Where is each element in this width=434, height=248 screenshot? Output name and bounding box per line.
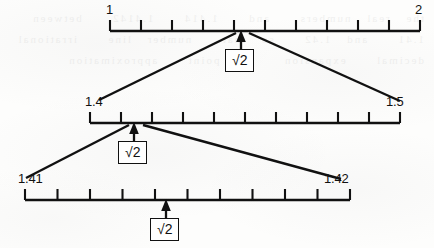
- axis-end-label-line2: 1.5: [386, 94, 403, 109]
- magnifier-middle: [26, 125, 341, 179]
- number-line-1p41-to-1p42: [25, 189, 350, 219]
- sqrt2-value-box-line2: √2: [118, 141, 147, 164]
- number-line-magnification-figure: the real numbers and 1.414 1.4142 betwee…: [0, 0, 434, 248]
- number-line-1p4-to-1p5: [90, 112, 400, 142]
- magnifier-right-ray: [143, 125, 341, 179]
- axis-end-label-line1: 2: [415, 2, 422, 17]
- axis-end-label-line3: 1.42: [324, 171, 349, 186]
- sqrt2-value-box-line3: √2: [150, 218, 179, 241]
- magnifier-left-ray: [99, 33, 236, 100]
- axis-start-label-line1: 1: [106, 2, 113, 17]
- axis-start-label-line3: 1.41: [18, 171, 43, 186]
- sqrt2-value-box-line1: √2: [225, 49, 254, 72]
- number-line-1-to-2: [110, 20, 420, 50]
- magnifier-right-ray: [249, 33, 400, 101]
- figure-artwork: [0, 0, 434, 248]
- axis-start-label-line2: 1.4: [85, 94, 102, 109]
